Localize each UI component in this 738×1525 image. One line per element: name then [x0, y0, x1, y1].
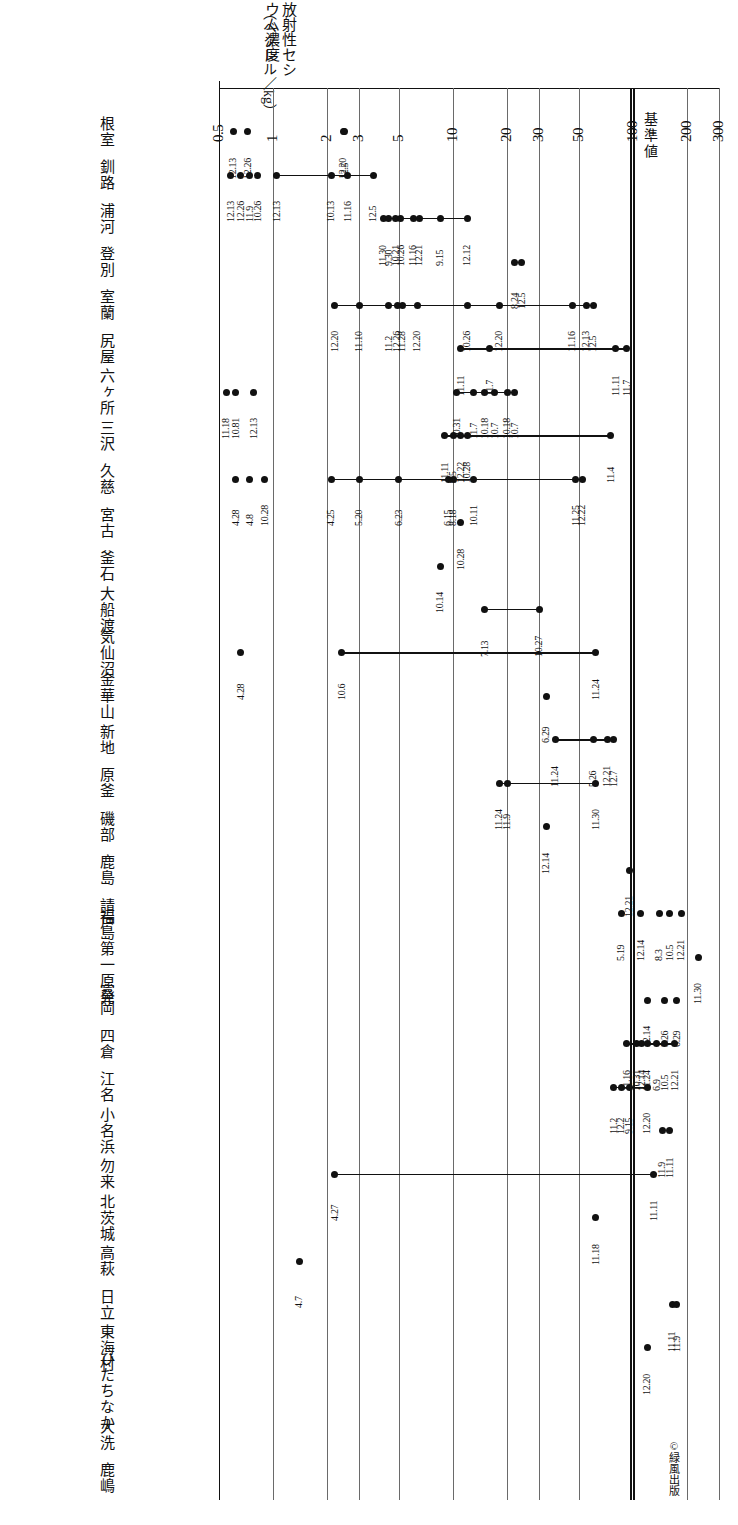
data-point [610, 736, 617, 743]
data-point-label: 9.15 [434, 224, 445, 266]
data-point [254, 172, 261, 179]
data-point [246, 476, 253, 483]
gridline-5 [399, 88, 400, 1500]
category-label: 六ヶ所 [98, 368, 114, 416]
series-connector [277, 175, 373, 176]
data-point-label: 11.4 [605, 441, 616, 483]
data-point [338, 649, 345, 656]
data-point [356, 476, 363, 483]
data-point [223, 389, 230, 396]
data-point-label: 10.6 [336, 658, 347, 700]
data-point-label: 11.30 [692, 962, 703, 1004]
data-point [437, 215, 444, 222]
data-point [644, 1344, 651, 1351]
data-point [331, 1171, 338, 1178]
data-point [666, 1127, 673, 1134]
data-point [623, 1040, 630, 1047]
data-point [592, 780, 599, 787]
data-point [592, 1214, 599, 1221]
category-label: 勿来 [98, 1158, 114, 1190]
data-point-label: 12.20 [493, 310, 504, 352]
data-point [450, 432, 457, 439]
data-point-label: 11.24 [590, 658, 601, 700]
data-point [296, 1258, 303, 1265]
category-label: 金華山 [98, 672, 114, 720]
data-point [244, 128, 251, 135]
data-point [232, 389, 239, 396]
data-point [656, 910, 663, 917]
data-point [659, 1127, 666, 1134]
data-point-label: 4.8 [244, 484, 255, 526]
tick-label-300: 300 [710, 72, 727, 142]
data-point-label: 12.12 [461, 224, 472, 266]
category-label: 登別 [98, 246, 114, 278]
tick-label-2: 2 [318, 72, 335, 142]
copyright-note: ©緑風出版 [666, 1440, 682, 1496]
data-point-label: 12.20 [411, 310, 422, 352]
data-point [232, 476, 239, 483]
data-point [230, 128, 237, 135]
category-label: 磯部 [98, 811, 114, 843]
data-point [237, 649, 244, 656]
data-point [579, 476, 586, 483]
data-point [250, 389, 257, 396]
data-point-label: 11.11 [610, 354, 621, 396]
data-point [441, 432, 448, 439]
data-point [496, 780, 503, 787]
data-point-label: 12.5 [516, 267, 527, 309]
data-point [237, 172, 244, 179]
category-label: 四倉 [98, 1028, 114, 1060]
data-point-label: 12.13 [248, 397, 259, 439]
data-point [590, 736, 597, 743]
data-point [650, 1171, 657, 1178]
category-label: 富岡 [98, 984, 114, 1016]
tick-label-50: 50 [570, 72, 587, 142]
data-point-label: 12.13 [271, 180, 282, 222]
data-point-label: 4.7 [293, 1266, 304, 1308]
data-point [273, 172, 280, 179]
data-point-label: 12.21 [669, 1049, 680, 1091]
data-point-label: 12.5 [367, 180, 378, 222]
data-point [246, 172, 253, 179]
data-point [470, 476, 477, 483]
category-label: 尻屋 [98, 333, 114, 365]
data-point-label: 10.7 [509, 397, 520, 439]
data-point [543, 693, 550, 700]
data-point [536, 606, 543, 613]
data-point-label: 12.20 [641, 1092, 652, 1134]
data-point [470, 389, 477, 396]
data-point-label: 5.20 [353, 484, 364, 526]
data-point-label: 10.26 [395, 224, 406, 266]
data-point-label: 12.21 [413, 224, 424, 266]
data-point [227, 172, 234, 179]
data-point [644, 1084, 651, 1091]
category-label: 日立 [98, 1289, 114, 1321]
category-label: 鹿嶋 [98, 1462, 114, 1494]
data-point-label: 11.9 [671, 1310, 682, 1352]
tick-label-0.5: 0.5 [210, 72, 227, 142]
data-point [504, 389, 511, 396]
category-label: 釧路 [98, 159, 114, 191]
data-point [673, 997, 680, 1004]
data-point-label: 12.5 [587, 310, 598, 352]
gridline-10 [453, 88, 454, 1500]
data-point [340, 128, 347, 135]
data-point [511, 389, 518, 396]
series-connector [485, 609, 539, 610]
data-point [416, 215, 423, 222]
data-point-label: 12.21 [623, 875, 634, 917]
reference-line [630, 88, 631, 1500]
category-label: 高萩 [98, 1245, 114, 1277]
data-point-label: 11.18 [590, 1223, 601, 1265]
data-point [397, 215, 404, 222]
data-point [626, 1084, 633, 1091]
data-point-label: 11.10 [353, 310, 364, 352]
data-point [618, 1084, 625, 1091]
series-connector [499, 783, 596, 784]
data-point-label: 10.28 [259, 484, 270, 526]
data-point-label: 12.14 [635, 919, 646, 961]
data-point-label: 4.25 [325, 484, 336, 526]
data-point [590, 302, 597, 309]
series-connector [342, 652, 596, 653]
data-point-label: 8.3 [653, 919, 664, 961]
